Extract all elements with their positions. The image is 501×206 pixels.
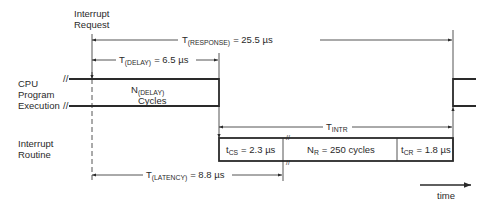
svg-text:Program: Program: [18, 89, 55, 100]
t-response-label: T(RESPONSE)= 25.5 µs: [182, 34, 273, 47]
svg-text:Interrupt: Interrupt: [74, 8, 110, 19]
t-latency-dimension: T(LATENCY)= 8.8 µs: [92, 169, 282, 182]
t-latency-label: T(LATENCY)= 8.8 µs: [146, 169, 225, 182]
t-delay-label: T(DELAY)= 6.5 µs: [119, 54, 189, 67]
cpu-program-execution-label: CPU Program Execution: [18, 78, 60, 111]
svg-text:Interrupt: Interrupt: [18, 138, 54, 149]
time-axis-indicator: time: [420, 185, 471, 201]
svg-text:Execution: Execution: [18, 100, 60, 111]
interrupt-routine-label: Interrupt Routine: [18, 138, 54, 160]
cpu-execution-block: // // N(DELAY) Cycles: [63, 73, 219, 111]
break-mark-icon: //: [286, 159, 290, 166]
break-mark-icon: //: [63, 73, 69, 84]
svg-text:Routine: Routine: [18, 149, 51, 160]
interrupt-request-label: Interrupt Request: [74, 8, 110, 30]
svg-text:CPU: CPU: [18, 78, 38, 89]
t-cr-label: tCR= 1.8 µs: [401, 144, 451, 156]
time-label: time: [437, 190, 455, 201]
t-cs-label: tCS= 2.3 µs: [226, 144, 276, 156]
n-r-label: NR= 250 cycles: [307, 144, 375, 156]
break-mark-icon: //: [286, 134, 290, 141]
t-intr-label: TINTR: [326, 121, 348, 133]
interrupt-timing-diagram: Interrupt Request T(RESPONSE)= 25.5 µs T…: [0, 0, 501, 206]
t-intr-dimension: TINTR: [219, 121, 452, 133]
svg-text:Cycles: Cycles: [138, 95, 167, 106]
t-delay-dimension: T(DELAY)= 6.5 µs: [92, 54, 218, 67]
svg-text:Request: Request: [74, 19, 110, 30]
interrupt-routine-box: // // tCS= 2.3 µs NR= 250 cycles tCR= 1.…: [219, 134, 453, 181]
t-response-dimension: T(RESPONSE)= 25.5 µs: [92, 34, 452, 47]
cpu-execution-resumed-block: [453, 79, 476, 106]
break-mark-icon: //: [63, 100, 69, 111]
